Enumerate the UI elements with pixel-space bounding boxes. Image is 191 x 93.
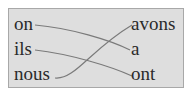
right-word-ont[interactable]: ont xyxy=(131,64,155,83)
line-nous-to-avons xyxy=(55,25,132,78)
right-word-avons[interactable]: avons xyxy=(131,14,175,33)
left-word-ils[interactable]: ils xyxy=(14,39,32,58)
left-word-nous[interactable]: nous xyxy=(14,64,50,83)
line-on-to-a xyxy=(35,25,130,50)
right-word-a[interactable]: a xyxy=(131,39,139,58)
left-word-on[interactable]: on xyxy=(14,14,33,33)
